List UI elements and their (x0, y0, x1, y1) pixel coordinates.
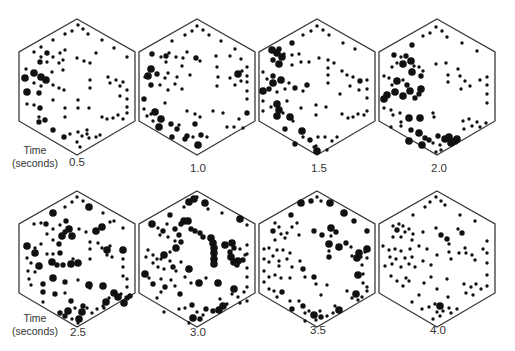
activity-dot (303, 275, 306, 278)
activity-dot (317, 56, 320, 59)
activity-dot (166, 88, 169, 91)
activity-dot (262, 269, 265, 272)
activity-dot (288, 251, 291, 254)
time-label-0-5: 0.5 (69, 157, 85, 169)
activity-dot (434, 195, 437, 198)
activity-dot (183, 33, 186, 36)
activity-dot (241, 126, 244, 129)
activity-dot (125, 285, 128, 288)
activity-dot (421, 259, 424, 262)
activity-dot (261, 99, 264, 102)
hexagon-outline (259, 19, 375, 155)
activity-dot (389, 125, 392, 128)
activity-dot (119, 246, 127, 254)
activity-dot (88, 247, 91, 250)
activity-dot (445, 277, 448, 280)
activity-dot (200, 234, 205, 239)
activity-dot (449, 257, 452, 260)
activity-dot (423, 205, 426, 208)
activity-dot (172, 244, 180, 252)
activity-dot (234, 262, 239, 267)
activity-dot (147, 65, 155, 73)
activity-dot (25, 256, 28, 259)
activity-dot (407, 57, 415, 65)
activity-dot (29, 261, 32, 264)
activity-dot (240, 257, 245, 262)
activity-dot (441, 309, 444, 312)
activity-dot (185, 265, 193, 273)
activity-dot (190, 29, 193, 32)
activity-dot (421, 34, 424, 37)
activity-dot (290, 265, 293, 268)
activity-dot (285, 257, 288, 260)
activity-dot (101, 211, 104, 214)
activity-dot (444, 61, 447, 64)
activity-dot (311, 274, 316, 279)
activity-dot (164, 60, 167, 63)
activity-dot (297, 233, 300, 236)
activity-dot (184, 217, 192, 225)
activity-dot (145, 114, 148, 117)
activity-dot (289, 306, 294, 311)
activity-dot (210, 308, 215, 313)
activity-dot (279, 232, 282, 235)
activity-dot (232, 125, 235, 128)
activity-dot (183, 275, 186, 278)
activity-dot (428, 31, 431, 34)
activity-dot (447, 242, 450, 245)
activity-dot (242, 290, 245, 293)
activity-dot (297, 299, 300, 302)
activity-dot (463, 79, 466, 82)
activity-dot (469, 285, 472, 288)
activity-dot (307, 137, 312, 142)
activity-dot (179, 260, 182, 263)
activity-dot (331, 311, 334, 314)
activity-dot (221, 111, 224, 114)
activity-dot (458, 213, 461, 216)
activity-dot (154, 71, 159, 76)
activity-dot (67, 260, 75, 268)
activity-dot (205, 135, 208, 138)
activity-dot (214, 279, 222, 287)
activity-dot (467, 117, 470, 120)
activity-dot (81, 27, 84, 30)
activity-dot (105, 117, 108, 120)
activity-dot (36, 119, 41, 124)
activity-dot (418, 141, 426, 149)
activity-dot (408, 127, 413, 132)
activity-dot (87, 136, 90, 139)
activity-dot (185, 109, 188, 112)
activity-dot (360, 295, 363, 298)
activity-dot (266, 86, 271, 91)
activity-dot (63, 218, 68, 223)
activity-dot (42, 117, 47, 122)
activity-dot (309, 29, 312, 32)
activity-dot (298, 127, 306, 135)
activity-dot (350, 296, 353, 299)
activity-dot (399, 249, 402, 252)
activity-dot (481, 247, 484, 250)
activity-dot (325, 148, 328, 151)
activity-dot (158, 83, 161, 86)
activity-dot (27, 277, 30, 280)
activity-dot (352, 290, 360, 298)
activity-dot (438, 232, 443, 237)
activity-dot (39, 45, 42, 48)
activity-dot (459, 87, 462, 90)
activity-dot (277, 225, 280, 228)
hexagon-time-series-figure: Time (seconds) Time (seconds) 0.5 1.0 1.… (0, 0, 515, 351)
activity-dot (357, 78, 362, 83)
activity-dot (245, 74, 248, 77)
activity-dot (364, 228, 369, 233)
activity-dot (474, 282, 477, 285)
activity-dot (25, 102, 28, 105)
activity-dot (464, 251, 467, 254)
activity-dot (300, 303, 305, 308)
activity-dot (151, 119, 154, 122)
activity-dot (63, 291, 66, 294)
activity-dot (406, 87, 414, 95)
activity-dot (39, 221, 42, 224)
activity-dot (245, 299, 248, 302)
activity-dot (354, 271, 362, 279)
activity-dot (198, 59, 201, 62)
